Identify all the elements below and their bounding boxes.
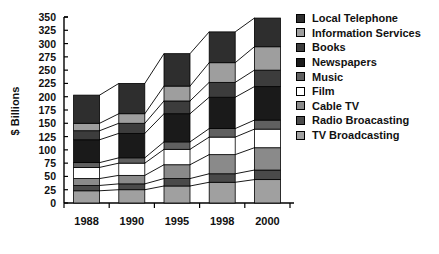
bar-segment [254,129,280,148]
legend-item[interactable]: Music [296,69,421,84]
bar-segment [209,174,235,183]
bar-segment [74,163,100,168]
legend-swatch-icon [296,43,305,52]
legend-item-label: Books [312,41,346,53]
bar-segment [209,63,235,83]
bar-segment [164,149,190,164]
x-axis-tick-label: 1988 [65,215,109,227]
bar-segment [74,191,100,203]
bar-segment [164,165,190,179]
bar-segment [209,137,235,155]
bar-segment [119,175,145,184]
legend-item-label: Cable TV [312,100,359,112]
bar-segment [164,179,190,186]
legend-item-label: Film [312,85,335,97]
legend-item[interactable]: Newspapers [296,55,421,70]
legend-swatch-icon [296,116,305,125]
bar-segment [209,155,235,174]
bar-segment [119,184,145,190]
bar-segment [209,82,235,97]
legend-item[interactable]: Cable TV [296,99,421,114]
legend-item-label: Newspapers [312,56,377,68]
legend-swatch-icon [296,87,305,96]
x-axis-tick-label: 2000 [245,215,289,227]
bar-segment [119,163,145,175]
bar-segment [164,114,190,142]
bar-segment [74,179,100,186]
bar-segment [164,186,190,203]
bar-segment [209,129,235,138]
bar-segment [254,120,280,129]
legend-swatch-icon [296,28,305,37]
bar-segment [164,101,190,114]
bar-segment [74,167,100,178]
legend-item-label: TV Broadcasting [312,129,399,141]
legend-item[interactable]: Film [296,84,421,99]
bar-segment [209,32,235,63]
bar-segment [74,123,100,130]
x-axis-tick-label: 1995 [155,215,199,227]
chart-container: $ Billions 02550751001251501752002252502… [0,0,439,254]
bar-segment [254,47,280,70]
bar-segment [254,180,280,203]
legend-item-label: Music [312,71,343,83]
bar-segment [254,148,280,170]
legend-item-label: Information Services [312,27,421,39]
bar-segment [254,87,280,120]
bar-segment [164,54,190,86]
bar-segment [74,95,100,123]
bar-segment [119,123,145,133]
bar-segment [164,142,190,149]
bar-segment [119,158,145,163]
chart-legend: Local TelephoneInformation ServicesBooks… [296,11,421,142]
legend-item[interactable]: Radio Broacasting [296,113,421,128]
legend-item[interactable]: TV Broadcasting [296,128,421,143]
x-axis-tick-label: 1990 [110,215,154,227]
legend-swatch-icon [296,72,305,81]
bar-segment [164,86,190,101]
bar-segment [209,97,235,128]
bar-segment [254,18,280,47]
legend-item[interactable]: Information Services [296,26,421,41]
legend-item-label: Radio Broacasting [312,114,409,126]
bar-segment [74,185,100,190]
legend-item-label: Local Telephone [312,12,398,24]
legend-swatch-icon [296,58,305,67]
bar-segment [119,190,145,203]
legend-item[interactable]: Local Telephone [296,11,421,26]
legend-swatch-icon [296,101,305,110]
legend-swatch-icon [296,14,305,23]
bar-segment [119,83,145,113]
bar-segment [74,140,100,163]
legend-item[interactable]: Books [296,40,421,55]
bar-segment [119,133,145,157]
bar-segment [119,114,145,124]
legend-swatch-icon [296,131,305,140]
bar-segment [209,182,235,203]
x-axis-tick-label: 1998 [200,215,244,227]
bar-segment [254,170,280,180]
bar-segment [74,131,100,140]
bar-group [74,18,281,203]
bar-segment [254,70,280,86]
